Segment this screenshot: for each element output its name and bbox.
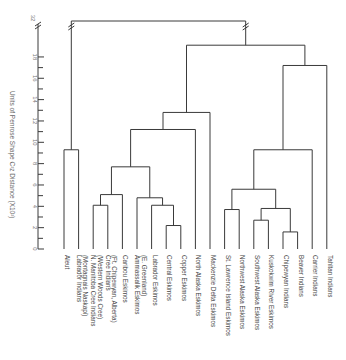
leaf-label: North Alaska Eskimos [195, 255, 202, 316]
leaf-label: Mackenzie Delta Eskimos [210, 255, 217, 327]
y-tick-label: 14 [32, 96, 38, 103]
leaf-label: Cree Indians(Ft. Chipewyan, Alberta) [105, 255, 119, 323]
leaf-label: Aleut [64, 255, 71, 270]
y-tick-label: 8 [32, 162, 38, 166]
leaf-label: Beaver Indians [298, 255, 305, 297]
leaf-label: Chipewyan Indians [282, 255, 290, 308]
leaf-label: Ammassalik Eskimos(E. Greenland) [134, 255, 148, 314]
y-tick-label: 4 [32, 205, 38, 209]
leaf-label: Labrador Eskimos [152, 255, 159, 306]
leaf-label: Labrador Indians(Montagnais Naskapi) [76, 255, 90, 316]
dendrogram-chart: 02468101214161832AleutLabrador Indians(M… [0, 0, 346, 360]
leaf-label: Kuskokwim River Eskimos [268, 255, 275, 329]
y-axis-title: Units of Penrose Shape C²z Distance (X10… [2, 60, 16, 250]
leaf-label: St. Lawrence Island Eskimos [225, 255, 232, 336]
leaf-label: Tahltan Indians [327, 255, 334, 297]
leaf-label: N. Manitoba Cree Indians(Western Woods C… [90, 255, 104, 326]
y-tick-label: 10 [32, 139, 38, 146]
y-tick-label: 6 [32, 183, 38, 187]
leaf-label: Northwest Alaska Eskimos [239, 255, 246, 329]
y-break-label: 32 [30, 15, 36, 22]
y-tick-label: 16 [32, 75, 38, 82]
y-tick-label: 18 [32, 54, 38, 61]
leaf-label: Southwest Alaska Eskimos [254, 255, 261, 330]
leaf-label: Copper Eskimos [180, 255, 188, 301]
y-tick-label: 2 [32, 226, 38, 230]
y-tick-label: 12 [32, 118, 38, 125]
leaf-label: Caribou Eskimos [122, 255, 129, 303]
leaf-label: Carrier Indians [312, 255, 319, 296]
y-tick-label: 0 [32, 247, 38, 251]
leaf-label: Central Eskimos [166, 255, 173, 301]
